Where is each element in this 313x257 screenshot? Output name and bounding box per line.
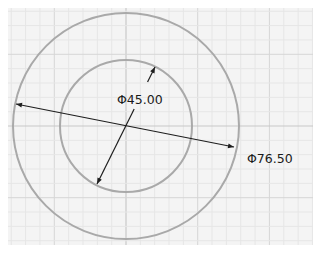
inner-diameter-label[interactable]: Φ45.00 xyxy=(117,92,163,107)
sketch-canvas[interactable]: Φ76.50Φ45.00 xyxy=(0,0,313,257)
outer-diameter-label[interactable]: Φ76.50 xyxy=(247,151,293,166)
